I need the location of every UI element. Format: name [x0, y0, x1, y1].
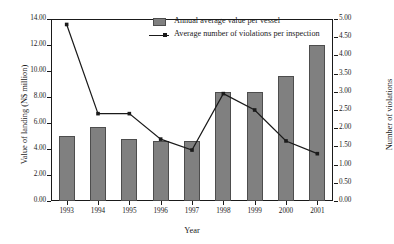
legend-bar-swatch-wrap — [144, 16, 174, 26]
y-axis-left-tick-label: 12.00 — [30, 41, 46, 48]
line-series-layer — [51, 19, 333, 201]
x-axis-labels: 199319941995199619971998199920002001 — [51, 207, 333, 219]
y-axis-left-tick-label: 10.00 — [30, 67, 46, 74]
line-marker-1994 — [96, 112, 100, 116]
x-axis-tick-mark — [286, 201, 287, 205]
x-axis-tick-mark — [192, 201, 193, 205]
x-axis-label-1993: 1993 — [59, 207, 73, 215]
y-axis-left-tick-label: 6.00 — [34, 119, 46, 126]
y-axis-right-tick-label: 1.50 — [339, 143, 351, 150]
x-axis-label-2001: 2001 — [310, 207, 324, 215]
legend-line-swatch-wrap — [144, 29, 174, 39]
y-axis-left-tick-label: 8.00 — [34, 93, 46, 100]
y-axis-left-title: Value of landing (N$ million) — [20, 30, 29, 200]
y-axis-left-tick-mark — [47, 201, 51, 202]
y-axis-right-tick-mark — [334, 128, 338, 129]
x-axis-title: Year — [51, 226, 333, 235]
x-axis-tick-mark — [67, 201, 68, 205]
legend-item-bars: Annual average value per vessel — [144, 16, 354, 27]
x-axis-tick-mark — [223, 201, 224, 205]
legend-item-line: Average number of violations per inspect… — [144, 29, 354, 40]
x-axis-tick-mark — [161, 201, 162, 205]
y-axis-right-tick-mark — [334, 165, 338, 166]
line-marker-1995 — [128, 112, 132, 116]
line-marker-2001 — [316, 152, 320, 156]
x-axis-label-1997: 1997 — [185, 207, 199, 215]
x-axis-label-1999: 1999 — [247, 207, 261, 215]
y-axis-right-tick-mark — [334, 146, 338, 147]
y-axis-right-tick-mark — [334, 55, 338, 56]
y-axis-right-tick-mark — [334, 110, 338, 111]
y-axis-right-tick-label: 0.50 — [339, 179, 351, 186]
x-axis-tick-mark — [317, 201, 318, 205]
line-swatch-marker — [163, 33, 167, 37]
y-axis-right-tick-mark — [334, 183, 338, 184]
line-marker-1996 — [159, 137, 163, 141]
y-axis-right-tick-label: 4.00 — [339, 52, 351, 59]
x-axis-tick-mark — [129, 201, 130, 205]
x-axis-label-1998: 1998 — [216, 207, 230, 215]
y-axis-left-tick-label: 14.00 — [30, 15, 46, 22]
legend-label-line: Average number of violations per inspect… — [174, 29, 354, 40]
violations-line — [67, 24, 318, 153]
y-axis-right-tick-mark — [334, 201, 338, 202]
line-marker-1997 — [190, 148, 194, 152]
y-axis-left-tick-label: 2.00 — [34, 171, 46, 178]
y-axis-left-tick-label: 4.00 — [34, 145, 46, 152]
x-axis-label-1995: 1995 — [122, 207, 136, 215]
y-axis-right-tick-label: 1.00 — [339, 161, 351, 168]
x-axis-label-1996: 1996 — [153, 207, 167, 215]
chart-legend: Annual average value per vessel Average … — [144, 16, 354, 41]
line-marker-1998 — [222, 92, 226, 96]
y-axis-right-tick-label: 3.00 — [339, 88, 351, 95]
y-axis-right-tick-label: 2.00 — [339, 125, 351, 132]
y-axis-right-tick-mark — [334, 92, 338, 93]
y-axis-right-title: Number of violations — [385, 30, 394, 200]
x-axis-label-1994: 1994 — [91, 207, 105, 215]
bar-swatch-icon — [153, 18, 166, 26]
line-marker-2000 — [284, 139, 288, 143]
line-marker-1993 — [65, 23, 69, 27]
y-axis-right-tick-label: 2.50 — [339, 106, 351, 113]
line-marker-1999 — [253, 108, 257, 112]
y-axis-left-tick-label: 0.00 — [34, 197, 46, 204]
y-axis-right-tick-label: 0.00 — [339, 197, 351, 204]
x-axis-tick-mark — [255, 201, 256, 205]
y-axis-right-tick-label: 3.50 — [339, 70, 351, 77]
x-axis-tick-mark — [98, 201, 99, 205]
x-axis-label-2000: 2000 — [279, 207, 293, 215]
legend-label-bars: Annual average value per vessel — [174, 16, 354, 27]
y-axis-right-tick-mark — [334, 74, 338, 75]
line-swatch-icon — [149, 31, 169, 39]
